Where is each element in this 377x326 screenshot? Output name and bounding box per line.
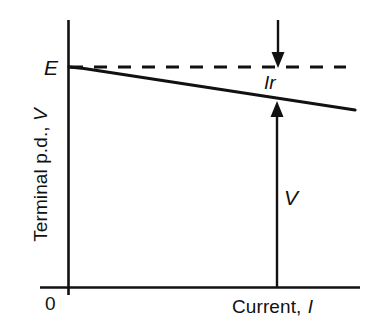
terminal-pd-line: [69, 67, 355, 110]
terminal-pd-label: V: [284, 186, 298, 210]
y-axis-title-text: Terminal p.d.,: [30, 121, 51, 242]
graph-canvas: [0, 0, 377, 326]
terminal-pd-vs-current-figure: Terminal p.d., V Current, I 0 E Ir V: [0, 0, 377, 326]
x-axis-title: Current, I: [232, 296, 313, 318]
origin-label: 0: [45, 293, 56, 315]
ir-top-arrow: [272, 20, 285, 68]
emf-label: E: [44, 56, 58, 80]
x-axis-title-text: Current,: [232, 296, 307, 317]
internal-resistance-drop-label: Ir: [264, 72, 276, 94]
y-axis-symbol: V: [30, 108, 51, 121]
x-axis-symbol: I: [307, 296, 313, 317]
y-axis-title: Terminal p.d., V: [30, 60, 52, 290]
